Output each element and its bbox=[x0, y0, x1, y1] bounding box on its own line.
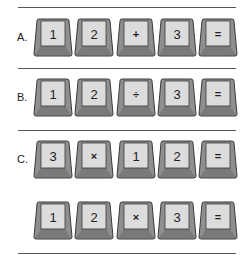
key-c2-1: 1 bbox=[33, 201, 73, 240]
key-label: 2 bbox=[82, 22, 106, 46]
key-c-2: × bbox=[74, 140, 114, 179]
key-b-4: 3 bbox=[157, 78, 197, 117]
key-label: 1 bbox=[41, 205, 65, 229]
divider-bc bbox=[18, 130, 236, 131]
key-c2-4: 3 bbox=[157, 201, 197, 240]
option-a-row: A. 1 2 + 3 = bbox=[0, 18, 246, 58]
key-a-1: 1 bbox=[33, 18, 73, 57]
divider-bottom bbox=[18, 253, 236, 254]
option-a-label: A. bbox=[17, 31, 27, 43]
key-label: × bbox=[124, 205, 148, 229]
key-c2-2: 2 bbox=[74, 201, 114, 240]
key-label: 3 bbox=[165, 82, 189, 106]
key-label: = bbox=[206, 82, 230, 106]
key-label: ÷ bbox=[124, 82, 148, 106]
key-a-3: + bbox=[116, 18, 156, 57]
key-label: 3 bbox=[165, 205, 189, 229]
key-label: 1 bbox=[124, 144, 148, 168]
option-b-row: B. 1 2 ÷ 3 = bbox=[0, 78, 246, 118]
key-c-3: 1 bbox=[116, 140, 156, 179]
key-label: = bbox=[206, 22, 230, 46]
key-label: 2 bbox=[165, 144, 189, 168]
key-label: 2 bbox=[82, 82, 106, 106]
key-label: + bbox=[124, 22, 148, 46]
key-b-2: 2 bbox=[74, 78, 114, 117]
option-b-label: B. bbox=[17, 91, 27, 103]
key-label: 1 bbox=[41, 22, 65, 46]
key-c2-3: × bbox=[116, 201, 156, 240]
key-label: 3 bbox=[41, 144, 65, 168]
option-c-row-2: 1 2 × 3 = bbox=[0, 201, 246, 241]
key-label: 3 bbox=[165, 22, 189, 46]
divider-ab bbox=[18, 68, 236, 69]
key-c-4: 2 bbox=[157, 140, 197, 179]
key-a-4: 3 bbox=[157, 18, 197, 57]
key-b-5: = bbox=[198, 78, 238, 117]
key-c-5: = bbox=[198, 140, 238, 179]
key-b-3: ÷ bbox=[116, 78, 156, 117]
key-label: 2 bbox=[82, 205, 106, 229]
key-a-5: = bbox=[198, 18, 238, 57]
key-c2-5: = bbox=[198, 201, 238, 240]
option-c-row: C. 3 × 1 2 = bbox=[0, 140, 246, 180]
option-c-label: C. bbox=[17, 153, 28, 165]
key-label: 1 bbox=[41, 82, 65, 106]
divider-top bbox=[18, 7, 236, 8]
key-label: = bbox=[206, 144, 230, 168]
key-b-1: 1 bbox=[33, 78, 73, 117]
key-c-1: 3 bbox=[33, 140, 73, 179]
key-a-2: 2 bbox=[74, 18, 114, 57]
key-label: = bbox=[206, 205, 230, 229]
key-label: × bbox=[82, 144, 106, 168]
